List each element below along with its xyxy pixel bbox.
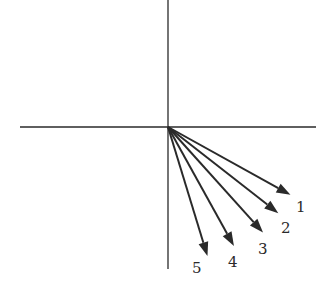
vector-label-2: 2 xyxy=(281,219,291,237)
vector-1-arrowhead-icon xyxy=(276,184,291,195)
vector-3-shaft xyxy=(168,127,254,222)
vector-label-3: 3 xyxy=(258,240,268,258)
vector-2-shaft xyxy=(168,127,267,205)
vector-label-5: 5 xyxy=(192,259,202,277)
vector-2-arrowhead-icon xyxy=(264,201,278,214)
labels-group: 1 2 3 4 5 xyxy=(192,198,306,277)
vectors-group xyxy=(168,127,290,256)
vector-label-4: 4 xyxy=(228,253,238,271)
vector-label-1: 1 xyxy=(296,198,306,216)
vector-4-arrowhead-icon xyxy=(223,231,234,246)
vector-diagram: 1 2 3 4 5 xyxy=(0,0,316,290)
vector-5-arrowhead-icon xyxy=(199,241,209,256)
